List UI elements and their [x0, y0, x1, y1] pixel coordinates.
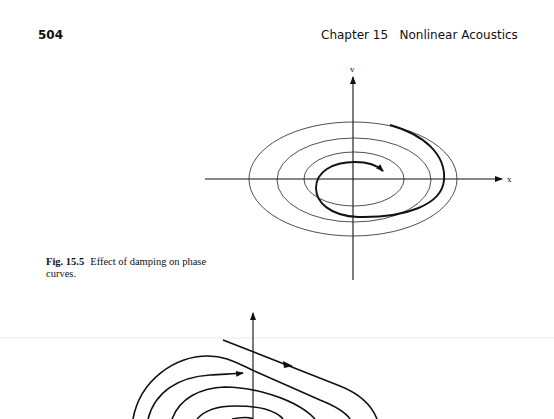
x-axis-label: x [507, 174, 512, 184]
figure-label: Fig. 15.5 [46, 256, 84, 267]
lower-curve-3 [172, 387, 315, 419]
v-axis-label: v [350, 64, 355, 74]
lower-curve-2 [148, 373, 243, 419]
figure-caption: Fig. 15.5Effect of damping on phase curv… [46, 256, 216, 280]
figure-15-5: x v [205, 64, 512, 280]
figures-canvas: x v [0, 0, 554, 419]
phase-ellipse-middle [277, 138, 431, 222]
figure-lower [133, 313, 377, 419]
